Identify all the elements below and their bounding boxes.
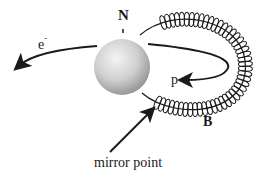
planet-sphere — [94, 39, 150, 95]
particle-helix — [153, 12, 253, 117]
magnetic-field-label: B — [203, 115, 212, 129]
proton-trajectory-arrow — [148, 44, 228, 80]
electron-trajectory-arrow — [20, 46, 97, 65]
north-pole-label: N — [118, 8, 129, 23]
mirror-point-label: mirror point — [94, 156, 162, 170]
electron-label: e- — [38, 36, 47, 52]
electron-charge: - — [44, 33, 47, 43]
mirror-point-arrow — [110, 112, 150, 152]
proton-label: p — [171, 73, 178, 87]
